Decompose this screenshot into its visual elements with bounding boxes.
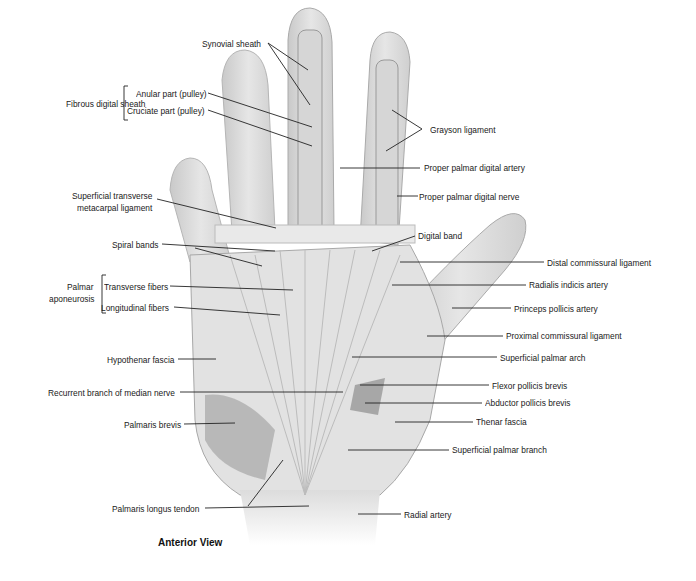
label-superficial-transverse-2: metacarpal ligament: [77, 202, 152, 213]
label-princeps-pollicis: Princeps pollicis artery: [514, 303, 598, 314]
wrist: [240, 490, 380, 545]
label-flexor-pollicis-brevis: Flexor pollicis brevis: [492, 380, 567, 391]
ring-finger: [222, 50, 275, 232]
label-palmaris-longus: Palmaris longus tendon: [112, 503, 199, 514]
label-superficial-palmar-branch: Superficial palmar branch: [452, 444, 547, 455]
label-cruciate-part: Cruciate part (pulley): [127, 105, 205, 116]
label-radial-artery: Radial artery: [404, 509, 451, 520]
label-distal-commissural: Distal commissural ligament: [547, 257, 651, 268]
label-digital-band: Digital band: [418, 230, 462, 241]
label-abductor-pollicis-brevis: Abductor pollicis brevis: [485, 397, 570, 408]
label-spiral-bands: Spiral bands: [112, 239, 158, 250]
label-proximal-commissural: Proximal commissural ligament: [506, 330, 622, 341]
label-superficial-palmar-arch: Superficial palmar arch: [500, 352, 585, 363]
label-anular-part: Anular part (pulley): [136, 88, 207, 99]
label-palmar-2: aponeurosis: [49, 293, 95, 304]
transverse-ligament-shape: [215, 225, 415, 243]
label-superficial-transverse-1: Superficial transverse: [72, 190, 152, 201]
label-hypothenar-fascia: Hypothenar fascia: [107, 354, 174, 365]
label-recurrent-branch: Recurrent branch of median nerve: [48, 387, 175, 398]
label-thenar-fascia: Thenar fascia: [476, 416, 527, 427]
label-palmar-1: Palmar: [67, 281, 93, 292]
little-finger: [170, 158, 232, 265]
label-proper-palmar-digital-nerve: Proper palmar digital nerve: [419, 191, 519, 202]
label-transverse-fibers: Transverse fibers: [104, 281, 168, 292]
label-longitudinal-fibers: Longitudinal fibers: [101, 302, 169, 313]
label-radialis-indicis: Radialis indicis artery: [529, 279, 608, 290]
label-proper-palmar-digital-artery: Proper palmar digital artery: [424, 162, 525, 173]
hand-anatomy-diagram: Synovial sheath Fibrous digital sheath A…: [0, 0, 696, 581]
label-palmaris-brevis: Palmaris brevis: [124, 419, 181, 430]
view-title: Anterior View: [158, 537, 222, 548]
label-synovial-sheath: Synovial sheath: [202, 38, 261, 49]
label-grayson-ligament: Grayson ligament: [430, 124, 496, 135]
